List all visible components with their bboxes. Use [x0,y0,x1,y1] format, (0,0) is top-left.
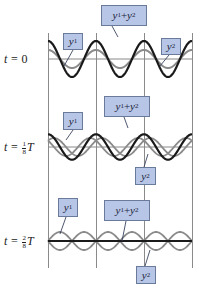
label-sum-t1: y1 + y2 [104,96,150,117]
label-pointer [122,221,126,241]
label-pointer [60,217,66,234]
label-y1-t2: y1 [58,198,78,217]
label-pointer [64,50,73,66]
label-pointer [112,26,118,37]
waves [48,26,193,266]
label-y1-t0: y1 [63,33,83,50]
time-label-t0: t = 0 [4,52,27,67]
label-pointer [145,250,150,266]
time-label-t2: t = 28T [4,234,34,250]
label-y2-t1: y2 [135,167,156,185]
label-pointer [124,117,128,128]
label-y2-t0: y2 [161,38,181,55]
label-y1-t1: y1 [63,112,83,130]
label-pointer [160,55,169,66]
label-y2-t2: y2 [136,266,156,284]
label-pointer [66,130,73,140]
time-label-t1: t = 18T [4,140,34,156]
label-sum-t2: y1 + y2 [104,200,150,221]
label-sum-t0: y1 + y2 [101,5,147,26]
